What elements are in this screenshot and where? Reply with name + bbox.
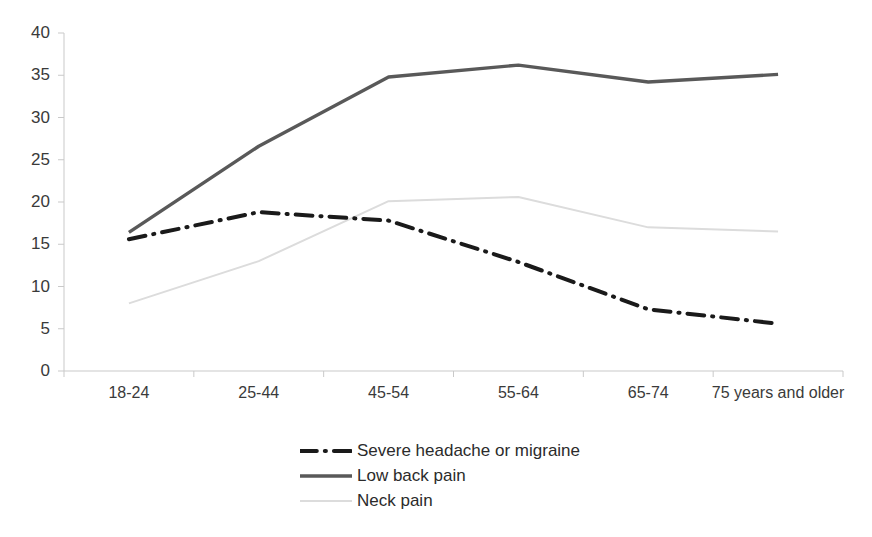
legend-swatch-icon — [300, 469, 352, 483]
y-tick-label: 30 — [10, 109, 50, 126]
x-tick-label: 45-54 — [319, 383, 459, 402]
series-line-2 — [129, 65, 778, 232]
x-tick-label: 25-44 — [189, 383, 329, 402]
y-tick-label: 40 — [10, 24, 50, 41]
y-tick-label: 0 — [10, 362, 50, 379]
x-tick-label: 75 years and older — [708, 383, 848, 402]
legend-label: Severe headache or migraine — [357, 442, 580, 459]
line-chart: 0510152025303540 18-2425-4445-5455-6465-… — [0, 0, 872, 537]
x-tick-label: 65-74 — [578, 383, 718, 402]
x-tick-label: 55-64 — [449, 383, 589, 402]
legend-item[interactable]: Severe headache or migraine — [300, 438, 630, 463]
legend-swatch-icon — [300, 494, 352, 508]
x-tick-label: 18-24 — [59, 383, 199, 402]
y-tick-label: 25 — [10, 151, 50, 168]
legend-label: Neck pain — [357, 492, 433, 509]
y-tick-label: 5 — [10, 320, 50, 337]
legend-item[interactable]: Low back pain — [300, 463, 630, 488]
y-tick-label: 35 — [10, 66, 50, 83]
legend-item[interactable]: Neck pain — [300, 488, 630, 513]
series-line-3 — [129, 197, 778, 303]
y-tick-label: 20 — [10, 193, 50, 210]
legend-swatch-icon — [300, 444, 352, 458]
y-tick-label: 15 — [10, 235, 50, 252]
chart-legend: Severe headache or migraineLow back pain… — [300, 438, 630, 513]
legend-label: Low back pain — [357, 467, 466, 484]
y-tick-label: 10 — [10, 278, 50, 295]
